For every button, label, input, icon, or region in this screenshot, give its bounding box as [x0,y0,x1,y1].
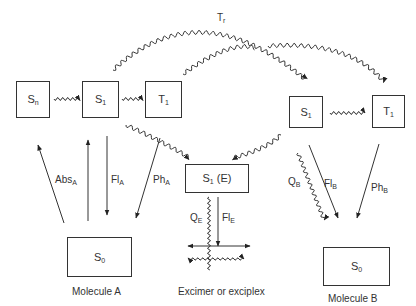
label-ph-a: PhA [153,174,170,186]
state-label: Sn [27,93,38,106]
q-b-decay [297,153,325,220]
state-label: S1 [95,93,106,106]
state-box-b-s0: S0 [323,247,390,286]
caption-excimer: Excimer or exciplex [178,286,265,297]
label-ph-b: PhB [371,182,388,194]
excimer-formation-from-a [126,125,189,160]
state-box-b-t1: T1 [372,95,405,128]
state-box-a-s1: S1 [82,81,119,118]
state-label: S0 [94,251,105,264]
label-abs-a: AbsA [55,174,77,186]
state-box-a-t1: T1 [145,81,182,118]
photophysics-diagram: Sn S1 T1 S0 S1 (E) S1 T1 S0 Tr AbsA FlA … [0,0,416,306]
ph-b-arrow [357,144,379,218]
energy-transfer-arc-t1-b [268,43,384,82]
caption-molecule-b: Molecule B [328,293,377,304]
state-box-excimer-s1: S1 (E) [185,164,249,193]
caption-molecule-a: Molecule A [72,286,121,297]
isc-arrow-b-s1-to-t1 [330,112,365,115]
label-q-e: QE [190,212,202,224]
energy-transfer-arc-t1 [183,45,255,75]
excimer-formation-from-b [233,135,282,160]
ground-wave-right [209,258,244,260]
state-label: S0 [351,260,362,273]
isc-arrow-s1-to-t1 [122,98,143,101]
state-label: T1 [158,93,169,106]
ground-wave-left [188,258,209,260]
label-fl-e: FlE [222,212,235,224]
state-box-b-s1: S1 [289,96,323,128]
state-box-a-s0: S0 [67,237,132,277]
label-q-b: QB [288,176,300,188]
label-fl-b: FlB [324,178,337,190]
state-label: S1 (E) [203,172,232,185]
state-box-a-sn: Sn [16,81,50,118]
state-label: T1 [383,105,394,118]
label-fl-a: FlA [111,174,124,186]
state-label: S1 [300,106,311,119]
label-tr: Tr [217,12,225,24]
ic-arrow-sn-to-s1 [54,98,80,101]
